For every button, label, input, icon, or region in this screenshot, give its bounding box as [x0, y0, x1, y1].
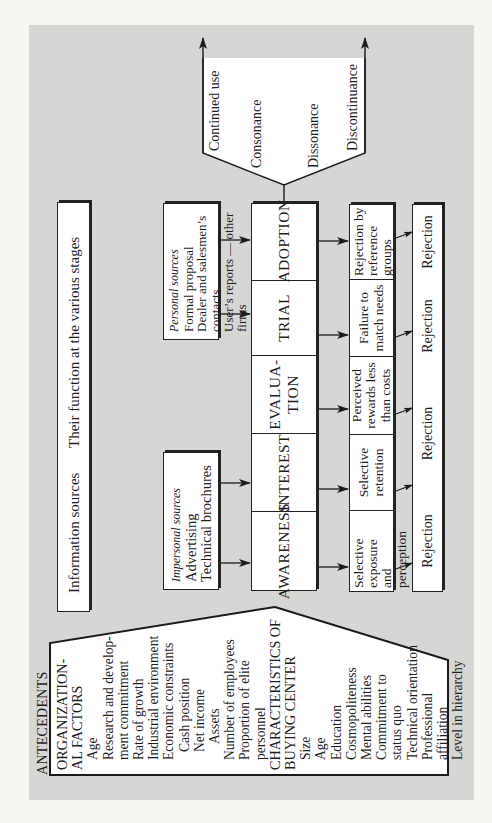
- antecedent-item: Technical orientation: [405, 378, 420, 770]
- stage-trial: TRIAL: [252, 280, 316, 355]
- antecedent-item: Education: [329, 378, 344, 770]
- antecedent-item: Rate of growth: [131, 378, 146, 770]
- antecedent-item: Number of employees: [222, 378, 237, 770]
- antecedent-item: Size: [298, 378, 313, 770]
- buying-center-heading: CHARACTERISTICS OF: [268, 378, 283, 770]
- personal-sources-title: Personal sources: [167, 204, 182, 332]
- antecedent-item: Assets: [207, 378, 222, 770]
- antecedent-item: affiliation: [435, 378, 450, 770]
- personal-source-item: User’s reports — other firms: [222, 204, 249, 332]
- antecedent-item: Industrial environment: [146, 378, 161, 770]
- antecedent-item: Cash position: [177, 378, 192, 770]
- antecedent-item: Age: [85, 378, 100, 770]
- rotated-diagram: Information sources Their function at th…: [0, 0, 492, 823]
- reason-reference-groups: Rejection by reference groups: [350, 203, 393, 279]
- antecedent-item: ment commitment: [116, 378, 131, 770]
- rejection-label: Rejection: [413, 276, 442, 376]
- outcome-discontinuance: Discontinuance: [346, 64, 360, 151]
- reason-failure-to-match: Failure to match needs: [350, 279, 393, 356]
- personal-source-item: Formal proposal: [182, 204, 195, 332]
- buying-center-heading: BUYING CENTER: [283, 378, 298, 770]
- antecedent-item: Level in hierarchy: [450, 378, 465, 770]
- org-factors-heading: ORGANIZATION-: [55, 378, 70, 770]
- antecedent-item: Commitment to: [374, 378, 389, 770]
- antecedent-item: Cosmopoliteness: [344, 378, 359, 770]
- outcome-shape: [203, 58, 365, 185]
- stage-adoption: ADOPTION: [252, 202, 316, 280]
- antecedents-list: ORGANIZATION-AL FACTORSAgeResearch and d…: [55, 378, 465, 770]
- antecedent-item: Proportion of elite: [237, 378, 252, 770]
- antecedent-item: Research and develop-: [101, 378, 116, 770]
- org-factors-heading: AL FACTORS: [70, 378, 85, 770]
- rejection-label: Rejection: [413, 203, 442, 281]
- antecedents-title: ANTECEDENTS: [36, 671, 50, 775]
- antecedent-item: Age: [313, 378, 328, 770]
- outcome-consonance: Consonance: [250, 100, 264, 168]
- antecedent-item: Professional: [420, 378, 435, 770]
- personal-source-item: Dealer and salesmen’s contacts: [195, 204, 222, 332]
- outcome-continued-use: Continued use: [208, 71, 222, 152]
- antecedent-item: Economic constraints: [161, 378, 176, 770]
- personal-sources-box: Personal sources Formal proposal Dealer …: [163, 203, 219, 340]
- antecedent-item: Net income: [192, 378, 207, 770]
- antecedent-item: personnel: [253, 378, 268, 770]
- outcome-dissonance: Dissonance: [307, 103, 321, 168]
- antecedent-item: status quo: [389, 378, 404, 770]
- antecedent-item: Mental abilities: [359, 378, 374, 770]
